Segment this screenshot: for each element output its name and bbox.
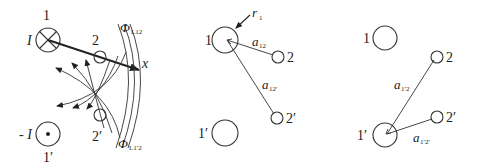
svg-text:L1′2: L1′2 [129,144,142,152]
flux-lines-L12 [116,24,141,148]
svg-text:a: a [413,130,420,145]
conductor-1prime-circle [212,120,238,146]
label-conductor-2: 2 [287,50,294,65]
label-current-minus-I: - I [19,127,33,142]
label-conductor-2: 2 [92,33,99,48]
label-radius-r1: r 1 [252,5,263,22]
svg-text:a: a [252,34,259,49]
label-phi-L12: Φ L12 [120,20,143,36]
label-conductor-2prime: 2′ [92,129,102,144]
flux-lines-L1prime2 [56,52,126,138]
svg-text:a: a [394,77,401,92]
svg-text:L12: L12 [131,28,143,36]
svg-text:1′2′: 1′2′ [420,138,431,146]
distance-a1prime2-line [387,60,434,134]
label-a1prime2: a 1′2 [394,77,410,93]
conductor-2prime-circle [271,112,283,124]
label-phi-L1prime2: Φ L1′2 [118,136,142,152]
svg-text:Φ: Φ [118,136,128,151]
svg-text:a: a [262,77,269,92]
label-conductor-2prime: 2′ [286,111,296,126]
label-conductor-1: 1 [205,33,212,48]
conductor-1-circle [373,26,397,50]
label-a1prime2prime: a 1′2′ [413,130,431,146]
label-conductor-1prime: 1′ [198,126,208,141]
label-conductor-2: 2 [446,50,453,65]
svg-text:r: r [252,5,258,20]
svg-text:12: 12 [259,42,267,50]
svg-text:12′: 12′ [269,85,278,93]
label-current-I: I [26,33,33,48]
radius-arrow-icon [236,15,250,28]
conductor-2prime-circle [431,111,443,123]
conductor-1-circle [212,27,238,53]
conductor-2-circle [272,51,284,63]
right-panel: 1 2 2′ 1′ a 1′2 a 1′2′ [357,26,456,147]
label-a12prime: a 12′ [262,77,278,93]
svg-text:1: 1 [259,14,263,22]
label-conductor-1prime: 1′ [43,150,53,165]
label-conductor-1: 1 [43,8,50,23]
left-panel: 1 I x 2 2′ - I 1′ [19,8,149,165]
svg-text:1′2: 1′2 [401,85,410,93]
distance-a12-line [227,40,273,55]
conductor-1prime-circle [373,123,397,147]
label-conductor-2prime: 2′ [446,110,456,125]
label-x-axis: x [141,56,149,71]
label-conductor-1: 1 [363,31,370,46]
svg-text:Φ: Φ [120,20,130,35]
conductor-1prime-dot-icon [36,122,60,146]
middle-panel: 1 r 1 a 12 a 12′ 2 2′ 1′ [198,5,296,146]
label-a12: a 12 [252,34,267,50]
conductor-diagram: 1 I x 2 2′ - I 1′ [0,0,477,168]
label-conductor-1prime: 1′ [357,128,367,143]
